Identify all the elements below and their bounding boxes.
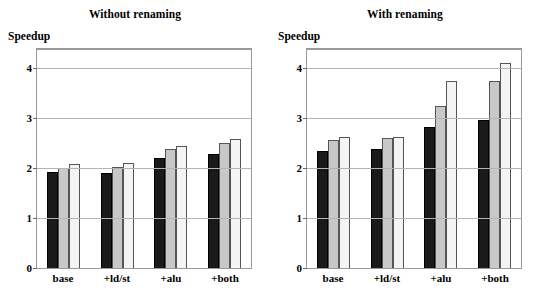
gridline-y-1 [307,218,521,219]
bar--both-s2 [219,143,230,268]
y-tick-mark [33,268,37,269]
gridline-y-3 [37,118,251,119]
bar--alu-s2 [435,106,446,268]
bar-group-base [47,50,80,268]
gridline-y-2 [307,168,521,169]
x-axis-label: base [36,272,90,292]
x-axis-label: +both [198,272,252,292]
y-axis-title: Speedup [8,30,50,42]
y-tick-mark [33,218,37,219]
y-tick-mark [33,168,37,169]
y-tick-label: 1 [27,212,33,223]
bar--alu-s3 [176,146,187,268]
bar--ld-st-s1 [371,149,382,268]
y-tick-label: 0 [297,263,303,274]
bar-group--alu [424,50,457,268]
y-tick-mark [303,68,307,69]
y-tick-mark [303,218,307,219]
x-axis-label: base [306,272,360,292]
bar--both-s3 [230,139,241,268]
y-tick-label: 2 [27,162,33,173]
gridline-y-2 [37,168,251,169]
bar-group--ld-st [371,50,404,268]
bar-base-s2 [328,140,339,268]
y-tick-label: 3 [297,112,303,123]
x-axis-labels: base+ld/st+alu+both [36,272,252,292]
bars-layer [307,50,521,268]
bar-group--ld-st [101,50,134,268]
bar-group--both [478,50,511,268]
chart-panel-without-renaming: Without renaming Speedup 01234 base+ld/s… [0,0,270,298]
gridline-y-4 [37,68,251,69]
chart-title: With renaming [270,8,540,20]
gridline-y-4 [307,68,521,69]
y-tick-mark [303,168,307,169]
y-tick-mark [33,68,37,69]
x-axis-labels: base+ld/st+alu+both [306,272,522,292]
y-tick-label: 4 [297,62,303,73]
chart-panel-with-renaming: With renaming Speedup 01234 base+ld/st+a… [270,0,540,298]
bar--ld-st-s3 [393,137,404,268]
bar--alu-s3 [446,81,457,268]
bar--ld-st-s2 [382,138,393,268]
bar-base-s1 [47,172,58,268]
gridline-y-3 [307,118,521,119]
y-axis-title: Speedup [278,30,320,42]
y-tick-mark [303,118,307,119]
bar--ld-st-s3 [123,163,134,268]
y-tick-label: 4 [27,62,33,73]
bar--both-s2 [489,81,500,268]
bar--ld-st-s1 [101,173,112,268]
bars-layer [37,50,251,268]
y-tick-label: 0 [27,263,33,274]
bar--both-s3 [500,63,511,268]
y-tick-label: 2 [297,162,303,173]
x-axis-label: +ld/st [90,272,144,292]
y-tick-label: 3 [27,112,33,123]
bar-group--both [208,50,241,268]
bar-base-s3 [69,164,80,268]
x-axis-label: +alu [144,272,198,292]
bar-base-s3 [339,137,350,268]
y-tick-mark [33,118,37,119]
plot-area: 01234 [36,48,252,269]
x-axis-label: +ld/st [360,272,414,292]
x-axis-label: +both [468,272,522,292]
x-axis-label: +alu [414,272,468,292]
plot-area: 01234 [306,48,522,269]
bar--alu-s1 [424,127,435,268]
charts-container: Without renaming Speedup 01234 base+ld/s… [0,0,541,298]
chart-title: Without renaming [0,8,270,20]
y-tick-label: 1 [297,212,303,223]
bar--both-s1 [478,120,489,268]
bar--alu-s1 [154,158,165,268]
bar-group-base [317,50,350,268]
bar-group--alu [154,50,187,268]
bar--both-s1 [208,154,219,268]
gridline-y-1 [37,218,251,219]
y-tick-mark [303,268,307,269]
